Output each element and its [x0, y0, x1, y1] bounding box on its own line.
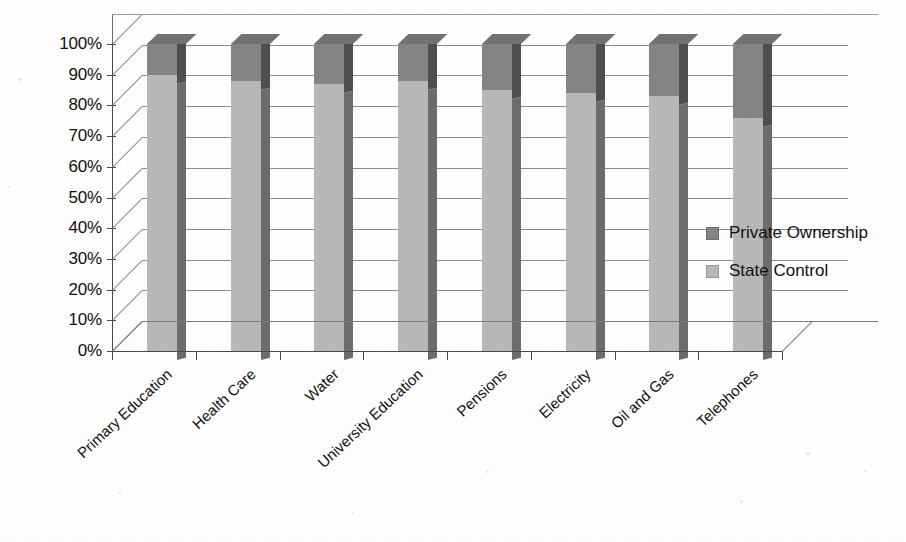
- x-axis-tick-mark: [782, 351, 783, 360]
- x-axis-tick-mark: [363, 351, 364, 360]
- y-axis-labels: 100%90%80%70%60%50%40%30%20%10%0%: [26, 0, 102, 400]
- floor-right-edge: [782, 321, 812, 351]
- y-axis-tick-label: 30%: [69, 250, 102, 267]
- x-axis-tick-mark: [698, 351, 699, 360]
- y-axis-tick-mark: [107, 290, 116, 291]
- bar-top-face: [231, 34, 280, 44]
- bar-segment-private-ownership: [733, 44, 763, 118]
- x-axis-category-label: Water: [185, 366, 342, 514]
- scan-speck: [740, 500, 743, 503]
- scan-speck: [352, 512, 354, 514]
- y-axis-tick-mark: [107, 351, 116, 352]
- bar-side-face-private-ownership: [679, 42, 688, 105]
- bar-side-face-private-ownership: [177, 42, 186, 84]
- gridline-depth-edge: [112, 198, 143, 229]
- bar-top-face: [147, 34, 196, 44]
- bar-column: [314, 44, 344, 351]
- x-axis-category-label: Telephones: [604, 366, 761, 514]
- bar-segment-state-control: [398, 81, 428, 351]
- x-axis-category-label: Oil and Gas: [520, 366, 677, 514]
- scan-speck: [8, 186, 10, 188]
- bar-segment-state-control: [147, 75, 177, 351]
- x-axis-category-label: University Education: [269, 366, 426, 514]
- bar-segment-state-control: [649, 96, 679, 351]
- legend-label: Private Ownership: [729, 224, 868, 242]
- bar-segment-private-ownership: [231, 44, 261, 81]
- bar-side-face-state-control: [428, 88, 437, 360]
- y-axis-tick-mark: [107, 44, 116, 45]
- y-axis-tick-label: 90%: [69, 66, 102, 83]
- bar-column: [733, 44, 763, 351]
- bar-segment-state-control: [566, 93, 596, 351]
- x-axis-category-label: Electricity: [436, 366, 593, 514]
- x-axis-tick-mark: [447, 351, 448, 360]
- y-axis-tick-mark: [107, 75, 116, 76]
- y-axis-tick-mark: [107, 167, 116, 168]
- y-axis-tick-mark: [107, 105, 116, 106]
- bar-segment-state-control: [231, 81, 261, 351]
- bar-side-face-state-control: [177, 81, 186, 360]
- bar-side-face-private-ownership: [512, 42, 521, 99]
- bar-segment-private-ownership: [566, 44, 596, 93]
- legend-item: State Control: [706, 262, 868, 280]
- y-axis-tick-label: 60%: [69, 158, 102, 175]
- bar-top-face: [566, 34, 615, 44]
- gridline-depth-edge: [112, 290, 143, 321]
- gridline-depth-edge: [112, 137, 143, 168]
- bar-side-face-state-control: [261, 88, 270, 360]
- y-axis-tick-label: 50%: [69, 189, 102, 206]
- gridline-depth-edge: [112, 229, 143, 260]
- bar-top-face: [314, 34, 363, 44]
- x-axis-category-label: Health Care: [101, 366, 258, 514]
- gridline-depth-edge: [112, 45, 143, 76]
- y-axis-tick-mark: [107, 136, 116, 137]
- floor-back-edge: [142, 321, 878, 322]
- chart-legend: Private OwnershipState Control: [706, 224, 868, 300]
- y-axis-tick-mark: [107, 228, 116, 229]
- bar-top-face: [649, 34, 698, 44]
- bar-top-face: [398, 34, 447, 44]
- scan-speck: [18, 78, 21, 81]
- bar-segment-private-ownership: [649, 44, 679, 96]
- scan-speck: [118, 492, 121, 494]
- bar-column: [147, 44, 177, 351]
- bar-side-face-private-ownership: [596, 42, 605, 102]
- bar-segment-private-ownership: [398, 44, 428, 81]
- bar-side-face-private-ownership: [261, 42, 270, 90]
- bar-column: [566, 44, 596, 351]
- gridline-depth-edge: [112, 75, 143, 106]
- y-axis-tick-label: 10%: [69, 311, 102, 328]
- y-axis-tick-mark: [107, 320, 116, 321]
- x-axis-tick-mark: [615, 351, 616, 360]
- gridline-depth-edge: [112, 14, 143, 45]
- y-axis-tick-label: 70%: [69, 127, 102, 144]
- legend-color-swatch: [706, 227, 719, 240]
- legend-color-swatch: [706, 265, 719, 278]
- bar-side-face-private-ownership: [763, 42, 772, 127]
- y-axis-tick-label: 40%: [69, 219, 102, 236]
- gridline-depth-edge: [112, 106, 143, 137]
- legend-item: Private Ownership: [706, 224, 868, 242]
- x-axis-tick-mark: [531, 351, 532, 360]
- bar-side-face-private-ownership: [428, 42, 437, 90]
- scan-speck: [806, 452, 810, 455]
- scan-speck: [486, 470, 489, 473]
- gridline-depth-edge: [112, 168, 143, 199]
- x-axis-tick-mark: [280, 351, 281, 360]
- scan-speck: [864, 470, 867, 472]
- bar-column: [398, 44, 428, 351]
- bar-segment-private-ownership: [482, 44, 512, 90]
- chart-container: 100%90%80%70%60%50%40%30%20%10%0% Primar…: [0, 0, 906, 542]
- y-axis-tick-mark: [107, 198, 116, 199]
- floor-left-edge: [112, 321, 142, 351]
- y-axis-tick-label: 0%: [78, 342, 102, 359]
- gridline-depth-edge: [112, 260, 143, 291]
- wall-top-edge: [112, 14, 878, 15]
- x-axis-tick-mark: [196, 351, 197, 360]
- bar-segment-private-ownership: [314, 44, 344, 84]
- bar-column: [482, 44, 512, 351]
- bar-side-face-state-control: [344, 91, 353, 360]
- bar-segment-state-control: [314, 84, 344, 351]
- bar-segment-private-ownership: [147, 44, 177, 75]
- y-axis-tick-label: 20%: [69, 281, 102, 298]
